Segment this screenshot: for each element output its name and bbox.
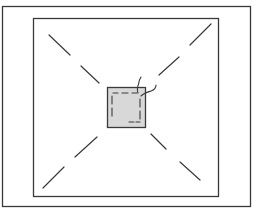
patch <box>108 77 157 128</box>
guide-line-top-left <box>49 35 99 83</box>
guide-line-bottom-right <box>151 134 200 180</box>
guide-line-bottom-left <box>43 137 97 188</box>
diagram-canvas <box>0 0 255 211</box>
guide-line-top-right <box>159 24 211 75</box>
